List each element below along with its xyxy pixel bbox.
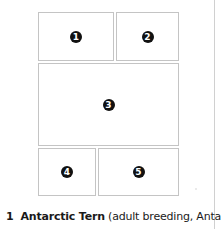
panel-number-badge: 1	[70, 31, 82, 43]
species-caption: 1Antarctic Tern (adult breeding, Antarct…	[6, 210, 221, 223]
caption-species-name: Antarctic Tern	[20, 210, 104, 223]
plate-panel-1: 1	[38, 12, 114, 61]
plate-panel-5: 5	[98, 148, 179, 196]
caption-index: 1	[6, 210, 13, 223]
panel-number-badge: 3	[103, 99, 115, 111]
speck	[195, 188, 197, 190]
plate-panel-4: 4	[38, 148, 96, 196]
plate-panel-3: 3	[38, 63, 179, 146]
panel-number-badge: 4	[61, 166, 73, 178]
page-gutter-divider	[214, 0, 215, 229]
panel-number-badge: 2	[142, 31, 154, 43]
plate-panel-2: 2	[116, 12, 179, 61]
caption-detail: (adult breeding, Antarctic	[108, 210, 221, 223]
panel-number-badge: 5	[133, 166, 145, 178]
